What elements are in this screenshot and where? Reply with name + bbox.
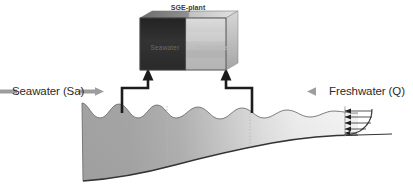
plant-title-label: SGE-plant	[140, 4, 236, 11]
diagram-canvas	[0, 0, 413, 195]
plant-box-top-face	[140, 11, 238, 18]
freshwater-arrow-head	[307, 87, 316, 95]
plant-seawater-cell-label: Seawater	[141, 44, 189, 51]
estuary-bed-line-extension	[358, 134, 392, 135]
plant-box-band-1	[186, 32, 226, 41]
plant-box-side-face	[226, 11, 238, 70]
plant-connectors	[122, 80, 252, 113]
seawater-flow-label: Seawater (Sa)	[12, 85, 84, 97]
water-shade-overlay	[82, 103, 358, 181]
right-intake-connector-line	[226, 80, 252, 113]
sge-plant-box	[140, 11, 238, 70]
plant-freshwater-cell-label: Freshwater	[189, 44, 238, 51]
seawater-arrow-head	[95, 87, 104, 95]
freshwater-flow-label: Freshwater (Q)	[329, 85, 405, 97]
sge-plant-estuary-diagram: SGE-plant Seawater Freshwater Seawater (…	[0, 0, 413, 195]
plant-box-band-2	[186, 50, 226, 58]
estuary-water-body	[82, 103, 358, 181]
